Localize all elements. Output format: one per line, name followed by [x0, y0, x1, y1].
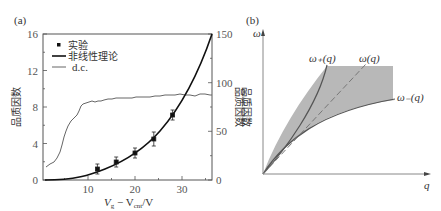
- right-tick-50: 50: [216, 125, 228, 137]
- legend-marker-experiment: [57, 43, 61, 47]
- x-tick-30: 30: [177, 183, 189, 195]
- x-tick-10: 10: [83, 183, 95, 195]
- legend: 实验 非线性理论 d.c.: [52, 39, 118, 73]
- q-axis-label: q: [424, 179, 430, 191]
- left-tick-4: 4: [33, 138, 39, 150]
- legend-label-experiment: 实验: [68, 39, 88, 51]
- panel-b-label: (b): [246, 14, 259, 27]
- dc-curve: [46, 94, 212, 167]
- legend-label-dc: d.c.: [72, 61, 88, 73]
- x-tick-20: 20: [130, 183, 142, 195]
- omega-axis-label: ω: [253, 27, 261, 39]
- x-axis-label: Vg − Vcnt/V: [104, 196, 153, 210]
- q-axis-arrow-icon: [424, 172, 431, 176]
- omega-dashed-line: [263, 64, 366, 174]
- left-axis-ticks: [43, 34, 47, 180]
- figure: (a) 0 4 8 12 16 0 50 100 150: [0, 0, 441, 211]
- omega-axis-arrow-icon: [261, 29, 265, 36]
- omega-label: ω(q): [359, 52, 380, 65]
- right-axis-ticks: [208, 34, 212, 180]
- omega-minus-label: ω₋(q): [397, 91, 424, 104]
- right-tick-100: 100: [216, 77, 233, 89]
- left-tick-8: 8: [33, 101, 39, 113]
- region-edge: [393, 66, 395, 100]
- shaded-region: [263, 66, 395, 174]
- left-y-axis-label: 品质因数: [10, 87, 22, 127]
- panel-a-label: (a): [14, 14, 27, 27]
- left-tick-12: 12: [27, 65, 38, 77]
- right-tick-150: 150: [216, 28, 233, 40]
- left-tick-0: 0: [33, 174, 39, 186]
- right-tick-0: 0: [216, 174, 222, 186]
- omega-plus-label: ω₊(q): [309, 52, 336, 65]
- left-tick-16: 16: [27, 28, 39, 40]
- x-axis-ticks: [65, 176, 206, 180]
- panel-b-faint-label: 品质因数: [241, 87, 253, 127]
- experiment-points: [95, 110, 174, 174]
